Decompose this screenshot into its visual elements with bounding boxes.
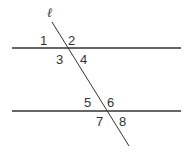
angle-label-6: 6 bbox=[107, 95, 114, 110]
parallel-lines-transversal-diagram: ℓ 1 2 3 4 5 6 7 8 bbox=[0, 0, 188, 157]
angle-label-4: 4 bbox=[80, 52, 87, 67]
angle-label-8: 8 bbox=[119, 114, 126, 129]
angle-label-3: 3 bbox=[56, 52, 63, 67]
transversal-line bbox=[52, 22, 129, 146]
angle-label-7: 7 bbox=[96, 114, 103, 129]
angle-label-2: 2 bbox=[68, 33, 75, 48]
angle-label-1: 1 bbox=[40, 33, 47, 48]
angle-label-5: 5 bbox=[84, 95, 91, 110]
transversal-label: ℓ bbox=[47, 5, 53, 20]
